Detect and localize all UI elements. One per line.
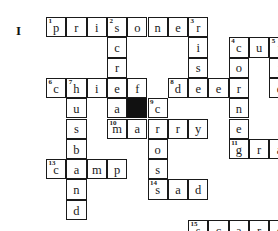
cell-letter: o bbox=[128, 18, 146, 36]
crossword-block-cell bbox=[127, 98, 147, 118]
crossword-cell[interactable]: 15s bbox=[188, 220, 208, 231]
crossword-cell[interactable]: e bbox=[229, 119, 249, 139]
crossword-grid[interactable]: 1pri2sone3rci4cu5trsoi6c7hief8deereua9cn… bbox=[46, 17, 270, 221]
crossword-cell[interactable]: 7h bbox=[66, 78, 86, 98]
crossword-cell[interactable]: i bbox=[87, 17, 107, 37]
crossword-cell[interactable]: 9c bbox=[148, 98, 168, 118]
crossword-cell[interactable]: 13c bbox=[46, 159, 66, 179]
crossword-cell[interactable]: e bbox=[188, 78, 208, 98]
crossword-cell[interactable]: e bbox=[208, 78, 228, 98]
crossword-cell[interactable]: p bbox=[107, 159, 127, 179]
crossword-cell[interactable]: a bbox=[127, 119, 147, 139]
crossword-cell[interactable]: 2s bbox=[107, 17, 127, 37]
crossword-cell[interactable]: u bbox=[66, 98, 86, 118]
cell-letter: r bbox=[169, 120, 187, 138]
crossword-cell[interactable]: e bbox=[269, 220, 278, 231]
crossword-cell[interactable]: 8d bbox=[168, 78, 188, 98]
cell-letter: r bbox=[250, 140, 268, 158]
crossword-cell[interactable]: d bbox=[66, 200, 86, 220]
cell-letter: r bbox=[230, 79, 248, 97]
cell-letter: o bbox=[230, 59, 248, 77]
crossword-cell[interactable]: e bbox=[269, 78, 278, 98]
crossword-cell[interactable]: c bbox=[107, 37, 127, 57]
crossword-puzzle: I 1pri2sone3rci4cu5trsoi6c7hief8deereua9… bbox=[0, 0, 278, 231]
cell-letter: r bbox=[250, 221, 268, 231]
crossword-cell[interactable]: 6c bbox=[46, 78, 66, 98]
crossword-cell[interactable]: f bbox=[127, 78, 147, 98]
crossword-cell[interactable]: s bbox=[148, 159, 168, 179]
crossword-cell[interactable]: r bbox=[107, 58, 127, 78]
crossword-cell[interactable]: r bbox=[66, 17, 86, 37]
clue-number: 15 bbox=[191, 221, 198, 229]
crossword-cell[interactable]: o bbox=[148, 139, 168, 159]
cell-letter: n bbox=[230, 99, 248, 117]
cell-letter: u bbox=[67, 99, 85, 117]
crossword-cell[interactable]: o bbox=[127, 17, 147, 37]
crossword-cell[interactable]: i bbox=[87, 78, 107, 98]
crossword-cell[interactable]: 14s bbox=[148, 179, 168, 199]
crossword-cell[interactable]: r bbox=[249, 220, 269, 231]
clue-number: 11 bbox=[231, 140, 238, 148]
crossword-cell[interactable]: n bbox=[229, 98, 249, 118]
crossword-cell[interactable]: r bbox=[148, 119, 168, 139]
crossword-cell[interactable]: m bbox=[87, 159, 107, 179]
cell-letter: e bbox=[270, 221, 278, 231]
crossword-cell[interactable]: 10m bbox=[107, 119, 127, 139]
clue-number: 4 bbox=[231, 38, 235, 46]
crossword-cell[interactable]: i bbox=[188, 37, 208, 57]
cell-letter: p bbox=[108, 160, 126, 178]
crossword-cell[interactable]: c bbox=[208, 220, 228, 231]
cell-letter: e bbox=[108, 79, 126, 97]
crossword-cell[interactable]: y bbox=[188, 119, 208, 139]
clue-number: 3 bbox=[191, 18, 195, 26]
clue-number: 2 bbox=[109, 18, 113, 26]
crossword-cell[interactable]: d bbox=[188, 179, 208, 199]
crossword-cell[interactable]: a bbox=[229, 220, 249, 231]
exercise-label: I bbox=[16, 24, 21, 37]
cell-letter: s bbox=[67, 120, 85, 138]
crossword-cell[interactable]: 1p bbox=[46, 17, 66, 37]
cell-letter: e bbox=[189, 79, 207, 97]
crossword-cell[interactable]: 3r bbox=[188, 17, 208, 37]
crossword-cell[interactable]: i bbox=[269, 58, 278, 78]
crossword-cell[interactable]: b bbox=[66, 139, 86, 159]
crossword-cell[interactable]: a bbox=[107, 98, 127, 118]
crossword-cell[interactable]: 5t bbox=[269, 37, 278, 57]
cell-letter: a bbox=[230, 221, 248, 231]
crossword-cell[interactable]: e bbox=[168, 17, 188, 37]
cell-letter: n bbox=[67, 180, 85, 198]
cell-letter: a bbox=[67, 160, 85, 178]
crossword-cell[interactable]: a bbox=[66, 159, 86, 179]
cell-letter: s bbox=[189, 59, 207, 77]
crossword-cell[interactable]: r bbox=[249, 139, 269, 159]
crossword-cell[interactable]: s bbox=[188, 58, 208, 78]
cell-letter: e bbox=[230, 120, 248, 138]
crossword-cell[interactable]: a bbox=[168, 179, 188, 199]
crossword-cell[interactable]: n bbox=[148, 17, 168, 37]
clue-number: 7 bbox=[69, 79, 73, 87]
crossword-cell[interactable]: r bbox=[168, 119, 188, 139]
cell-letter: r bbox=[67, 18, 85, 36]
cell-letter: o bbox=[149, 140, 167, 158]
cell-letter: s bbox=[149, 160, 167, 178]
cell-letter: c bbox=[108, 38, 126, 56]
clue-number: 1 bbox=[49, 18, 53, 26]
crossword-cell[interactable]: 11g bbox=[229, 139, 249, 159]
cell-letter: f bbox=[128, 79, 146, 97]
crossword-cell[interactable]: 4c bbox=[229, 37, 249, 57]
cell-letter: b bbox=[67, 140, 85, 158]
cell-letter: m bbox=[88, 160, 106, 178]
cell-letter: i bbox=[270, 59, 278, 77]
crossword-cell[interactable]: u bbox=[249, 37, 269, 57]
crossword-cell[interactable]: s bbox=[66, 119, 86, 139]
crossword-cell[interactable]: e bbox=[107, 78, 127, 98]
crossword-cell[interactable]: r bbox=[229, 78, 249, 98]
crossword-cell[interactable]: a bbox=[269, 139, 278, 159]
cell-letter: y bbox=[189, 120, 207, 138]
crossword-cell[interactable]: o bbox=[229, 58, 249, 78]
cell-letter: n bbox=[149, 18, 167, 36]
clue-number: 5 bbox=[272, 38, 276, 46]
cell-letter: a bbox=[270, 140, 278, 158]
clue-number: 13 bbox=[49, 160, 56, 168]
crossword-cell[interactable]: n bbox=[66, 179, 86, 199]
